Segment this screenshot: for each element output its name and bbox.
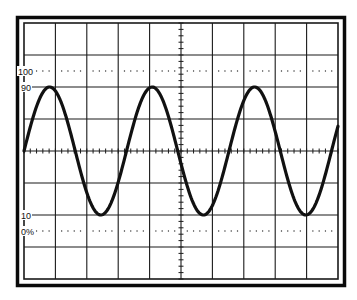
reference-dot [237, 70, 238, 71]
reference-dot [287, 70, 288, 71]
reference-dot [262, 230, 263, 231]
reference-dot [67, 70, 68, 71]
reference-dot [287, 230, 288, 231]
reference-dot [281, 230, 282, 231]
reference-dot [231, 70, 232, 71]
reference-dot [312, 70, 313, 71]
reference-dot [249, 70, 250, 71]
reference-dot [80, 230, 81, 231]
reference-dot [36, 230, 37, 231]
reference-dot [318, 230, 319, 231]
reference-dot [61, 70, 62, 71]
reference-dot [48, 70, 49, 71]
reference-dot [231, 230, 232, 231]
reference-dot [36, 70, 37, 71]
label-10: 10 [21, 211, 31, 221]
reference-dot [293, 230, 294, 231]
reference-dot [42, 70, 43, 71]
reference-dot [205, 70, 206, 71]
reference-dot [61, 230, 62, 231]
reference-dot [256, 230, 257, 231]
reference-dot [124, 230, 125, 231]
reference-dot [74, 230, 75, 231]
reference-dot [312, 230, 313, 231]
reference-dot [48, 230, 49, 231]
reference-dot [155, 70, 156, 71]
reference-dot [187, 230, 188, 231]
label-0-percent: 0% [21, 227, 34, 237]
reference-dot [199, 70, 200, 71]
reference-dot [136, 230, 137, 231]
reference-dot [325, 230, 326, 231]
reference-dot [281, 70, 282, 71]
reference-dot [187, 70, 188, 71]
reference-dot [193, 230, 194, 231]
reference-dot [124, 70, 125, 71]
reference-dot [168, 230, 169, 231]
reference-dot [105, 230, 106, 231]
reference-dot [130, 70, 131, 71]
reference-dot [99, 230, 100, 231]
reference-dot [268, 230, 269, 231]
reference-dot [92, 230, 93, 231]
reference-dot [218, 230, 219, 231]
reference-dot [268, 70, 269, 71]
reference-dot [67, 230, 68, 231]
reference-dot [325, 70, 326, 71]
reference-dot [331, 70, 332, 71]
reference-dot [174, 70, 175, 71]
reference-dot [143, 230, 144, 231]
reference-dot [199, 230, 200, 231]
reference-dot [80, 70, 81, 71]
reference-dot [224, 70, 225, 71]
reference-dot [143, 70, 144, 71]
reference-dot [155, 230, 156, 231]
reference-dot [224, 230, 225, 231]
reference-dot [161, 70, 162, 71]
reference-dot [293, 70, 294, 71]
label-90: 90 [21, 83, 31, 93]
reference-dot [262, 70, 263, 71]
reference-dot [218, 70, 219, 71]
reference-dot [99, 70, 100, 71]
reference-dot [92, 70, 93, 71]
reference-dot [111, 70, 112, 71]
reference-dot [74, 70, 75, 71]
reference-dot [193, 70, 194, 71]
reference-dot [205, 230, 206, 231]
reference-dot [249, 230, 250, 231]
reference-dot [331, 230, 332, 231]
reference-dot [256, 70, 257, 71]
reference-dot [237, 230, 238, 231]
reference-dot [42, 230, 43, 231]
oscilloscope-display: 100 90 10 0% [0, 0, 357, 300]
reference-dot [300, 230, 301, 231]
reference-dot [168, 70, 169, 71]
reference-dot [161, 230, 162, 231]
reference-dot [105, 70, 106, 71]
reference-dot [174, 230, 175, 231]
reference-dot [136, 70, 137, 71]
reference-dot [300, 70, 301, 71]
reference-dot [111, 230, 112, 231]
label-100: 100 [18, 67, 33, 77]
reference-dot [130, 230, 131, 231]
reference-dot [318, 70, 319, 71]
